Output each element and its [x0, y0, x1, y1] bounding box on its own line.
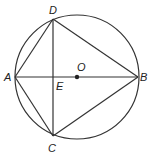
label-a: A — [3, 71, 11, 83]
segment-db — [53, 19, 138, 77]
label-d: D — [49, 4, 57, 16]
geometry-diagram: D A B C E O — [0, 0, 156, 158]
segment-ca — [15, 77, 53, 136]
segment-bc — [53, 77, 138, 136]
label-b: B — [140, 71, 147, 83]
label-c: C — [48, 142, 56, 154]
segment-ad — [15, 19, 53, 77]
label-e: E — [56, 80, 64, 92]
label-o: O — [77, 61, 86, 73]
center-point-o — [75, 75, 79, 79]
